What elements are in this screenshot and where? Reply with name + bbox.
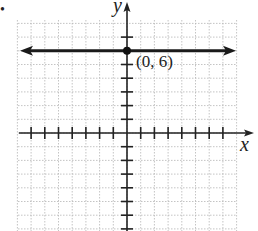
- axes: [19, 2, 254, 231]
- bullet-marker: •: [0, 2, 5, 18]
- graph-canvas: [0, 0, 258, 231]
- point-label: (0, 6): [136, 52, 173, 72]
- x-axis-label: x: [240, 133, 249, 156]
- y-axis-label: y: [113, 0, 122, 17]
- line-y-equals-6: [20, 46, 236, 56]
